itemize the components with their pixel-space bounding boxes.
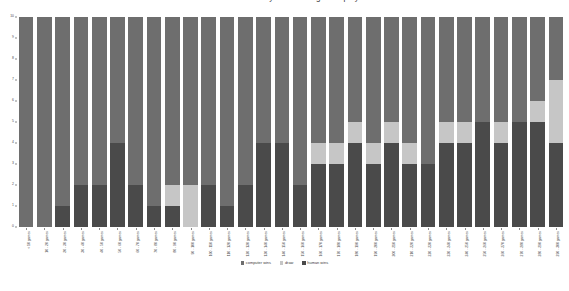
bar-segment-human-wins[interactable]	[256, 143, 271, 227]
bar-stack[interactable]	[475, 17, 490, 227]
bar-segment-computer-wins[interactable]	[256, 17, 271, 143]
bar-stack[interactable]	[348, 17, 363, 227]
bar-stack[interactable]	[494, 17, 509, 227]
bar-stack[interactable]	[74, 17, 89, 227]
bar-segment-computer-wins[interactable]	[402, 17, 417, 143]
bar-stack[interactable]	[530, 17, 545, 227]
bar-segment-computer-wins[interactable]	[512, 17, 527, 122]
bar-segment-human-wins[interactable]	[201, 185, 216, 227]
bar-segment-computer-wins[interactable]	[384, 17, 399, 122]
bar-stack[interactable]	[256, 17, 271, 227]
bar-stack[interactable]	[311, 17, 326, 227]
bar-segment-human-wins[interactable]	[293, 185, 308, 227]
bar-stack[interactable]	[55, 17, 70, 227]
bar-segment-computer-wins[interactable]	[74, 17, 89, 185]
bar-segment-human-wins[interactable]	[55, 206, 70, 227]
bar-segment-computer-wins[interactable]	[165, 17, 180, 185]
bar-segment-draw[interactable]	[348, 122, 363, 143]
bar-segment-human-wins[interactable]	[147, 206, 162, 227]
bar-segment-human-wins[interactable]	[128, 185, 143, 227]
bar-segment-computer-wins[interactable]	[110, 17, 125, 143]
bar-segment-human-wins[interactable]	[512, 122, 527, 227]
bar-stack[interactable]	[19, 17, 34, 227]
bar-segment-computer-wins[interactable]	[92, 17, 107, 185]
bar-stack[interactable]	[128, 17, 143, 227]
bar-segment-computer-wins[interactable]	[128, 17, 143, 185]
bar-stack[interactable]	[92, 17, 107, 227]
bar-segment-human-wins[interactable]	[439, 143, 454, 227]
bar-stack[interactable]	[421, 17, 436, 227]
bar-segment-draw[interactable]	[530, 101, 545, 122]
bar-segment-computer-wins[interactable]	[421, 17, 436, 164]
bar-segment-human-wins[interactable]	[348, 143, 363, 227]
bar-stack[interactable]	[549, 17, 564, 227]
bar-stack[interactable]	[147, 17, 162, 227]
bar-segment-computer-wins[interactable]	[457, 17, 472, 122]
bar-segment-draw[interactable]	[384, 122, 399, 143]
bar-segment-computer-wins[interactable]	[530, 17, 545, 101]
bar-stack[interactable]	[384, 17, 399, 227]
bar-segment-human-wins[interactable]	[165, 206, 180, 227]
legend-item[interactable]: draw	[280, 261, 293, 265]
bar-stack[interactable]	[402, 17, 417, 227]
bar-stack[interactable]	[275, 17, 290, 227]
bar-segment-draw[interactable]	[165, 185, 180, 206]
bar-segment-human-wins[interactable]	[475, 122, 490, 227]
bar-segment-human-wins[interactable]	[549, 143, 564, 227]
bar-stack[interactable]	[238, 17, 253, 227]
bar-segment-computer-wins[interactable]	[549, 17, 564, 80]
bar-stack[interactable]	[165, 17, 180, 227]
bar-stack[interactable]	[457, 17, 472, 227]
bar-segment-computer-wins[interactable]	[238, 17, 253, 185]
bar-segment-computer-wins[interactable]	[220, 17, 235, 206]
bar-segment-computer-wins[interactable]	[494, 17, 509, 122]
bar-stack[interactable]	[329, 17, 344, 227]
bar-stack[interactable]	[512, 17, 527, 227]
bar-segment-computer-wins[interactable]	[366, 17, 381, 143]
bar-segment-human-wins[interactable]	[457, 143, 472, 227]
bar-segment-computer-wins[interactable]	[201, 17, 216, 185]
bar-segment-computer-wins[interactable]	[37, 17, 52, 227]
bar-segment-computer-wins[interactable]	[329, 17, 344, 143]
bar-segment-human-wins[interactable]	[384, 143, 399, 227]
bar-segment-human-wins[interactable]	[366, 164, 381, 227]
bar-segment-draw[interactable]	[311, 143, 326, 164]
bar-segment-human-wins[interactable]	[220, 206, 235, 227]
bar-segment-human-wins[interactable]	[311, 164, 326, 227]
bar-segment-human-wins[interactable]	[238, 185, 253, 227]
bar-segment-human-wins[interactable]	[421, 164, 436, 227]
bar-segment-computer-wins[interactable]	[439, 17, 454, 122]
bar-stack[interactable]	[110, 17, 125, 227]
bar-segment-human-wins[interactable]	[329, 164, 344, 227]
bar-segment-human-wins[interactable]	[74, 185, 89, 227]
bar-segment-human-wins[interactable]	[275, 143, 290, 227]
bar-segment-computer-wins[interactable]	[183, 17, 198, 185]
bar-stack[interactable]	[439, 17, 454, 227]
bar-stack[interactable]	[201, 17, 216, 227]
bar-segment-computer-wins[interactable]	[147, 17, 162, 206]
bar-segment-draw[interactable]	[183, 185, 198, 227]
bar-stack[interactable]	[183, 17, 198, 227]
bar-segment-human-wins[interactable]	[402, 164, 417, 227]
bar-segment-draw[interactable]	[402, 143, 417, 164]
bar-segment-human-wins[interactable]	[530, 122, 545, 227]
bar-segment-computer-wins[interactable]	[311, 17, 326, 143]
bar-segment-computer-wins[interactable]	[475, 17, 490, 122]
legend-item[interactable]: computer wins	[241, 261, 271, 265]
legend-item[interactable]: human wins	[302, 261, 328, 265]
bar-segment-computer-wins[interactable]	[55, 17, 70, 206]
bar-segment-computer-wins[interactable]	[275, 17, 290, 143]
bar-stack[interactable]	[37, 17, 52, 227]
bar-segment-computer-wins[interactable]	[348, 17, 363, 122]
bar-segment-draw[interactable]	[329, 143, 344, 164]
bar-segment-computer-wins[interactable]	[293, 17, 308, 185]
bar-segment-draw[interactable]	[549, 80, 564, 143]
bar-segment-draw[interactable]	[439, 122, 454, 143]
bar-segment-draw[interactable]	[366, 143, 381, 164]
bar-stack[interactable]	[293, 17, 308, 227]
bar-segment-human-wins[interactable]	[494, 143, 509, 227]
bar-segment-draw[interactable]	[494, 122, 509, 143]
bar-segment-human-wins[interactable]	[110, 143, 125, 227]
bar-segment-computer-wins[interactable]	[19, 17, 34, 227]
bar-stack[interactable]	[366, 17, 381, 227]
